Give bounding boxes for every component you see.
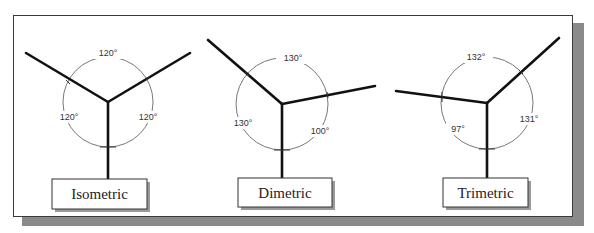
isometric-right-angle: 120° [139, 112, 158, 122]
isometric-panel: 120° 120° 120° Isometric [26, 47, 190, 212]
dimetric-panel: 130° 130° 100° Dimetric [208, 40, 375, 210]
dimetric-label: Dimetric [258, 185, 312, 201]
axonometric-diagram: 120° 120° 120° Isometric 130° 130° 100° … [0, 0, 594, 233]
isometric-top-angle: 120° [99, 48, 118, 58]
dimetric-right-angle: 100° [311, 126, 330, 136]
isometric-label: Isometric [71, 186, 128, 202]
dimetric-top-angle: 130° [284, 53, 303, 63]
trimetric-panel: 132° 97° 131° Trimetric [396, 38, 559, 210]
trimetric-left-angle: 97° [451, 124, 465, 134]
dimetric-right-axis [282, 86, 375, 104]
dimetric-left-angle: 130° [234, 118, 253, 128]
trimetric-right-angle: 131° [520, 114, 539, 124]
isometric-left-angle: 120° [60, 112, 79, 122]
trimetric-top-angle: 132° [467, 52, 486, 62]
trimetric-label: Trimetric [457, 185, 513, 201]
trimetric-right-axis [487, 38, 559, 103]
isometric-left-axis [26, 53, 108, 102]
